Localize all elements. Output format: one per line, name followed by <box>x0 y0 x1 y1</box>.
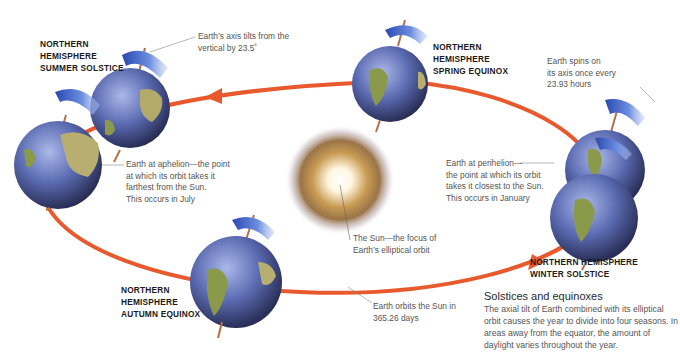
label-summer-solstice: NORTHERN HEMISPHERE SUMMER SOLSTICE <box>40 38 124 74</box>
label-winter-solstice: NORTHERN HEMISPHERE WINTER SOLSTICE <box>530 256 638 280</box>
info-body: The axial tilt of Earth combined with it… <box>484 303 680 351</box>
annotation-perihelion: Earth at perihelion— the point at which … <box>446 158 544 204</box>
label-autumn-equinox: NORTHERN HEMISPHERE AUTUMN EQUINOX <box>121 284 200 320</box>
annotation-orbit-period: Earth orbits the Sun in 365.26 days <box>373 301 456 324</box>
earth-spring-equinox <box>352 20 428 132</box>
orbit-diagram: NORTHERN HEMISPHERE SUMMER SOLSTICE NORT… <box>0 0 680 364</box>
info-title: Solstices and equinoxes <box>484 290 603 302</box>
orbit-arrow-icon <box>205 88 222 104</box>
spin-arrow-icon <box>605 99 645 126</box>
label-spring-equinox: NORTHERN HEMISPHERE SPRING EQUINOX <box>433 41 508 77</box>
spin-arrow-icon <box>385 25 428 44</box>
sun <box>285 125 395 240</box>
annotation-aphelion: Earth at aphelion—the point at which its… <box>126 159 230 205</box>
annotation-spin: Earth spins on its axis once every 23.93… <box>547 56 616 91</box>
earth-autumn-equinox <box>190 215 282 338</box>
annotation-sun: The Sun—the focus of Earth’s elliptical … <box>353 233 436 256</box>
annotation-axis-tilt: Earth’s axis tilts from the vertical by … <box>198 31 289 54</box>
earth-winter-solstice <box>550 99 645 270</box>
